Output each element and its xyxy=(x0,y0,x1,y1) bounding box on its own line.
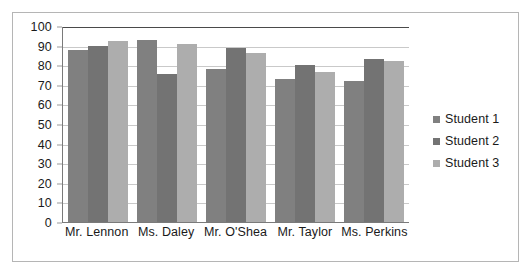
x-axis-tick-label: Mr. Taylor xyxy=(270,225,339,239)
bar[interactable] xyxy=(384,61,404,222)
bar-group xyxy=(340,27,409,222)
bar-group xyxy=(201,27,270,222)
bar[interactable] xyxy=(137,40,157,222)
x-axis-tick-label: Ms. Perkins xyxy=(340,225,409,239)
y-axis-tick-label: 0 xyxy=(45,216,52,230)
y-axis-tick-label: 100 xyxy=(31,20,52,34)
bar[interactable] xyxy=(275,79,295,222)
y-axis-tick-label: 40 xyxy=(38,138,52,152)
legend-swatch-icon xyxy=(433,116,440,123)
bar[interactable] xyxy=(108,41,128,222)
bar[interactable] xyxy=(206,69,226,222)
bar-series-layer xyxy=(63,27,409,222)
plot-area xyxy=(62,27,409,223)
y-axis: 0102030405060708090100 xyxy=(13,27,57,223)
chart-plot-wrapper: 0102030405060708090100 Mr. LennonMs. Dal… xyxy=(13,13,518,261)
bar[interactable] xyxy=(68,50,88,222)
bar-group xyxy=(132,27,201,222)
chart-frame: 0102030405060708090100 Mr. LennonMs. Dal… xyxy=(12,12,519,262)
y-axis-tick-label: 30 xyxy=(38,157,52,171)
x-axis-tick-label: Mr. Lennon xyxy=(62,225,131,239)
legend-label: Student 3 xyxy=(445,156,499,170)
bar[interactable] xyxy=(226,48,246,222)
y-axis-tick-label: 50 xyxy=(38,118,52,132)
y-axis-tick-label: 60 xyxy=(38,98,52,112)
bar[interactable] xyxy=(246,53,266,222)
bar-group xyxy=(63,27,132,222)
bar[interactable] xyxy=(315,72,335,222)
y-axis-tick-label: 20 xyxy=(38,177,52,191)
y-axis-tick-label: 70 xyxy=(38,79,52,93)
x-axis: Mr. LennonMs. DaleyMr. O'SheaMr. TaylorM… xyxy=(62,225,409,239)
bar[interactable] xyxy=(364,59,384,222)
legend-swatch-icon xyxy=(433,160,440,167)
bar[interactable] xyxy=(295,65,315,222)
legend-label: Student 1 xyxy=(445,112,499,126)
bar[interactable] xyxy=(88,46,108,222)
chart-legend: Student 1Student 2Student 3 xyxy=(433,108,517,174)
legend-swatch-icon xyxy=(433,138,440,145)
x-axis-tick-label: Mr. O'Shea xyxy=(201,225,270,239)
legend-item[interactable]: Student 3 xyxy=(433,152,517,174)
bar[interactable] xyxy=(177,44,197,222)
bar[interactable] xyxy=(344,81,364,222)
y-axis-tick-label: 90 xyxy=(38,40,52,54)
legend-item[interactable]: Student 2 xyxy=(433,130,517,152)
legend-label: Student 2 xyxy=(445,134,499,148)
x-axis-tick-label: Ms. Daley xyxy=(131,225,200,239)
y-axis-tick-label: 10 xyxy=(38,196,52,210)
legend-item[interactable]: Student 1 xyxy=(433,108,517,130)
y-axis-tick-label: 80 xyxy=(38,59,52,73)
bar-group xyxy=(271,27,340,222)
bar[interactable] xyxy=(157,74,177,222)
